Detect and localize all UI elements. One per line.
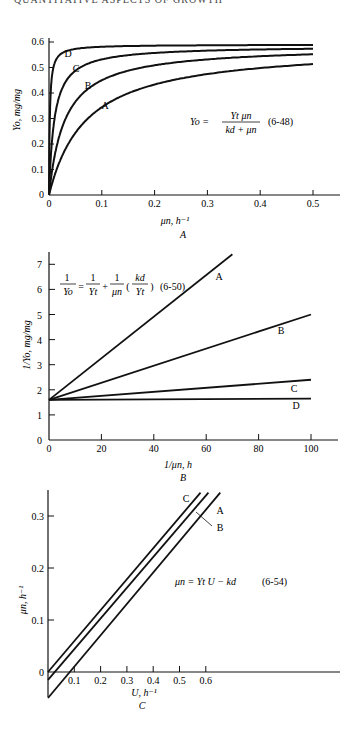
eq-paren: )	[150, 281, 153, 293]
y-axis-label: 1/Yo, mg/mg	[21, 320, 32, 370]
chart-a: 00.10.20.30.40.500.10.20.30.40.50.6DCBAY…	[11, 36, 340, 240]
series-label-c: C	[183, 493, 190, 504]
equation-6-50: 1Yo=1Yt+1μn(kdYt)(6-50)	[60, 272, 185, 297]
x-tick-label: 0	[47, 443, 52, 454]
panel-label: C	[139, 700, 146, 711]
y-tick-label: 3	[37, 360, 42, 371]
y-tick-label: 0.5	[32, 62, 45, 73]
eq-num: 1	[91, 272, 96, 283]
y-tick-label: 0.1	[32, 615, 45, 626]
series-label-b: B	[85, 80, 92, 91]
panel-label: B	[180, 472, 186, 483]
eq-paren: (	[126, 281, 130, 293]
equation-6-54: μn = Yt U − kd	[174, 576, 237, 587]
equation-number: (6-48)	[268, 116, 293, 128]
y-tick-label: 0.2	[32, 138, 45, 149]
series-label-c: C	[291, 383, 298, 394]
y-tick-label: 4	[37, 335, 42, 346]
y-tick-label: 0	[37, 435, 42, 446]
y-tick-label: 2	[37, 385, 42, 396]
y-tick-label: 0.2	[32, 563, 45, 574]
x-tick-label: 0.3	[121, 675, 134, 686]
equation-6-48: Yo =Yt μnkd + μn(6-48)	[190, 110, 293, 135]
series-B	[49, 315, 311, 400]
y-tick-label: 0.3	[32, 511, 45, 522]
eq-num: kd	[135, 272, 145, 283]
equation-lhs: Yo =	[190, 116, 209, 127]
x-tick-label: 0.4	[254, 198, 267, 209]
x-tick-label: 0.2	[148, 198, 161, 209]
equation-numerator: Yt μn	[231, 110, 252, 121]
series-label-b: B	[217, 522, 224, 533]
y-tick-label: 5	[37, 310, 42, 321]
series-A	[48, 493, 220, 698]
y-axis-label: Yo, mg/mg	[11, 89, 22, 131]
y-axis-label: μn, h⁻¹	[17, 586, 28, 615]
x-tick-label: 100	[304, 443, 319, 454]
series-label-d: D	[64, 48, 71, 59]
y-tick-label: 0.1	[32, 164, 45, 175]
eq-den: Yo	[63, 286, 73, 297]
x-tick-label: 0.2	[94, 675, 107, 686]
x-axis-label: U, h⁻¹	[131, 687, 157, 698]
x-tick-label: 0.5	[307, 198, 320, 209]
y-tick-label: 0	[39, 667, 44, 678]
y-tick-label: 0.3	[32, 113, 45, 124]
series-label-a: A	[216, 505, 224, 516]
y-tick-label: 1	[37, 410, 42, 421]
y-tick-label: 7	[37, 259, 42, 270]
x-tick-label: 60	[201, 443, 211, 454]
x-axis-label: μn, h⁻¹	[160, 215, 189, 226]
y-tick-label: 6	[37, 284, 42, 295]
series-D	[49, 399, 311, 400]
x-tick-label: 0	[47, 198, 52, 209]
x-tick-label: 0.6	[200, 675, 213, 686]
eq-equals: =	[78, 281, 84, 292]
eq-num: 1	[65, 272, 70, 283]
series-label-c: C	[73, 63, 80, 74]
series-label-a: A	[101, 100, 109, 111]
figure: 00.10.20.30.40.500.10.20.30.40.50.6DCBAY…	[0, 0, 356, 733]
x-tick-label: 20	[96, 443, 106, 454]
series-label-d: D	[292, 400, 299, 411]
y-tick-label: 0.4	[32, 87, 45, 98]
x-axis-label: 1/μn, h	[164, 459, 192, 470]
equation-number: (6-54)	[262, 576, 287, 588]
eq-den: Yt	[89, 286, 98, 297]
x-tick-label: 0.1	[68, 675, 81, 686]
eq-plus: +	[102, 281, 108, 292]
x-tick-label: 40	[149, 443, 159, 454]
chart-c: 0.10.20.30.40.50.600.10.20.3CABμn = Yt U…	[17, 490, 340, 711]
eq-den: μn	[111, 286, 122, 297]
chart-b: 02040608010001234567ABCD1Yo=1Yt+1μn(kdYt…	[21, 252, 338, 483]
equation-denominator: kd + μn	[225, 124, 256, 135]
series-label-a: A	[215, 271, 223, 282]
x-tick-label: 0.1	[96, 198, 109, 209]
eq-num: 1	[115, 272, 120, 283]
y-tick-label: 0	[39, 189, 44, 200]
equation-number: (6-50)	[160, 281, 185, 293]
series-label-b: B	[278, 325, 285, 336]
x-tick-label: 0.4	[147, 675, 160, 686]
x-tick-label: 80	[254, 443, 264, 454]
series-C	[49, 380, 311, 400]
eq-den: Yt	[136, 286, 145, 297]
panel-label: A	[179, 229, 187, 240]
x-tick-label: 0.3	[201, 198, 214, 209]
y-tick-label: 0.6	[32, 36, 45, 47]
x-tick-label: 0.5	[173, 675, 186, 686]
